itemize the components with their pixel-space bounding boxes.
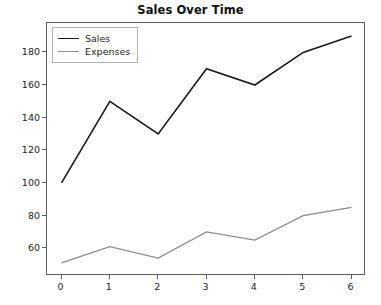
- y-tick-label: 180: [22, 46, 40, 57]
- x-tick-mark: [61, 275, 62, 279]
- x-tick-label: 6: [347, 281, 353, 292]
- x-tick-label: 2: [154, 281, 160, 292]
- legend-label: Sales: [85, 32, 110, 45]
- chart-title: Sales Over Time: [0, 3, 381, 17]
- y-tick-mark: [42, 51, 46, 52]
- y-tick-mark: [42, 149, 46, 150]
- y-tick-label: 100: [22, 177, 40, 188]
- x-tick-mark: [302, 275, 303, 279]
- x-tick-mark: [351, 275, 352, 279]
- y-tick-mark: [42, 84, 46, 85]
- legend-item-expenses[interactable]: Expenses: [58, 45, 130, 58]
- chart-legend: SalesExpenses: [52, 27, 138, 63]
- legend-item-sales[interactable]: Sales: [58, 32, 130, 45]
- y-tick-label: 160: [22, 79, 40, 90]
- y-tick-mark: [42, 247, 46, 248]
- legend-line-swatch-expenses: [58, 51, 79, 52]
- legend-label: Expenses: [85, 45, 130, 58]
- x-tick-label: 4: [251, 281, 257, 292]
- y-tick-label: 60: [28, 242, 40, 253]
- y-tick-mark: [42, 215, 46, 216]
- y-tick-label: 80: [28, 209, 40, 220]
- x-tick-label: 5: [299, 281, 305, 292]
- legend-line-swatch-sales: [58, 38, 79, 39]
- x-tick-mark: [254, 275, 255, 279]
- line-series-expenses: [62, 207, 352, 262]
- x-tick-mark: [206, 275, 207, 279]
- x-tick-mark: [109, 275, 110, 279]
- chart-figure: Sales Over Time 6080100120140160180 0123…: [0, 0, 381, 305]
- y-tick-label: 120: [22, 144, 40, 155]
- y-tick-mark: [42, 182, 46, 183]
- x-tick-label: 3: [202, 281, 208, 292]
- y-tick-label: 140: [22, 111, 40, 122]
- x-tick-label: 1: [106, 281, 112, 292]
- x-tick-mark: [157, 275, 158, 279]
- x-tick-label: 0: [57, 281, 63, 292]
- y-tick-mark: [42, 117, 46, 118]
